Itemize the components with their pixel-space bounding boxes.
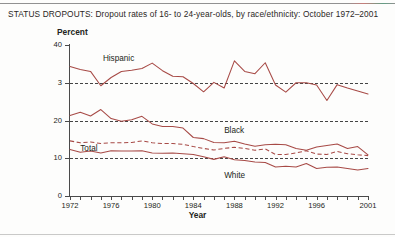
- top-divider: [0, 3, 395, 4]
- x-axis-label: Year: [0, 210, 395, 220]
- x-tick-mark: [255, 197, 256, 200]
- x-tick-label: 1972: [55, 201, 85, 210]
- x-tick-mark: [111, 197, 112, 200]
- y-axis-label: Percent: [57, 27, 88, 37]
- series-lines: [70, 45, 368, 196]
- y-tick-label: 0: [40, 191, 62, 200]
- series-label-black: Black: [224, 126, 244, 135]
- x-tick-mark: [204, 197, 205, 200]
- x-tick-mark: [121, 197, 122, 200]
- x-tick-mark: [368, 197, 369, 200]
- x-axis-line: [69, 196, 369, 197]
- x-tick-mark: [337, 197, 338, 200]
- x-tick-mark: [193, 197, 194, 200]
- series-line-black: [70, 110, 368, 155]
- x-tick-mark: [132, 197, 133, 200]
- series-label-white: White: [224, 171, 245, 180]
- x-tick-mark: [183, 197, 184, 200]
- x-tick-mark: [173, 197, 174, 200]
- x-tick-mark: [327, 197, 328, 200]
- x-tick-label: 1984: [178, 201, 208, 210]
- x-tick-mark: [265, 197, 266, 200]
- x-tick-label: 1992: [261, 201, 291, 210]
- x-tick-mark: [91, 197, 92, 200]
- bottom-divider: [0, 234, 395, 235]
- series-label-total: Total: [80, 144, 97, 153]
- x-tick-mark: [224, 197, 225, 200]
- x-tick-mark: [347, 197, 348, 200]
- x-tick-mark: [358, 197, 359, 200]
- x-tick-mark: [317, 197, 318, 200]
- x-tick-mark: [70, 197, 71, 200]
- x-tick-mark: [234, 197, 235, 200]
- x-tick-mark: [286, 197, 287, 200]
- y-tick-label: 3: [40, 78, 62, 87]
- x-tick-label: 1996: [302, 201, 332, 210]
- y-tick-label: 10: [40, 153, 62, 162]
- x-tick-mark: [152, 197, 153, 200]
- x-tick-mark: [214, 197, 215, 200]
- y-tick-label: 20: [40, 116, 62, 125]
- x-tick-mark: [276, 197, 277, 200]
- figure-title: STATUS DROPOUTS: Dropout rates of 16- to…: [8, 9, 378, 19]
- x-tick-mark: [306, 197, 307, 200]
- x-tick-label: 1976: [96, 201, 126, 210]
- y-tick-label: 40: [40, 40, 62, 49]
- x-tick-mark: [245, 197, 246, 200]
- series-line-hispanic: [70, 61, 368, 101]
- series-line-white: [70, 150, 368, 170]
- x-tick-mark: [142, 197, 143, 200]
- x-tick-label: 2001: [353, 201, 383, 210]
- x-tick-mark: [80, 197, 81, 200]
- x-tick-mark: [101, 197, 102, 200]
- figure-container: STATUS DROPOUTS: Dropout rates of 16- to…: [0, 0, 395, 237]
- x-tick-mark: [296, 197, 297, 200]
- x-tick-mark: [162, 197, 163, 200]
- x-tick-label: 1988: [219, 201, 249, 210]
- series-label-hispanic: Hispanic: [103, 54, 134, 63]
- plot-area: Hispanic Black Total White: [70, 45, 368, 196]
- x-tick-label: 1980: [137, 201, 167, 210]
